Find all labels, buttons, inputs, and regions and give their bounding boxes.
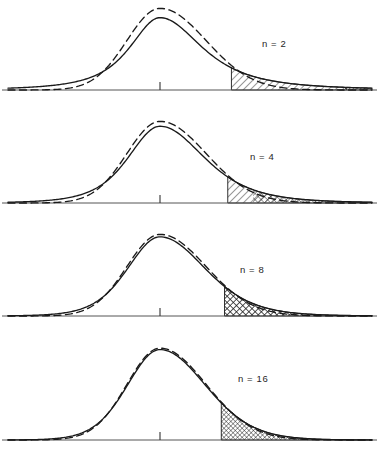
figure-canvas: n = 2 n = 4 n = 8 n = 16	[0, 0, 377, 453]
density-panel-n=4	[2, 121, 377, 203]
normal-distribution-curve	[8, 8, 372, 90]
t-distribution-curve	[8, 350, 372, 440]
panel-label-n4: n = 4	[250, 151, 274, 162]
panel-label-n8: n = 8	[240, 264, 264, 275]
normal-distribution-curve	[8, 348, 372, 440]
panels-group	[2, 8, 377, 440]
panel-label-n16: n = 16	[238, 373, 268, 384]
t-distribution-figure: n = 2 n = 4 n = 8 n = 16	[0, 0, 377, 453]
panel-label-n2: n = 2	[262, 38, 286, 49]
density-panel-n=16	[2, 348, 377, 440]
density-panel-n=2	[2, 8, 377, 90]
normal-distribution-curve	[8, 234, 372, 316]
normal-distribution-curve	[8, 121, 372, 203]
t-distribution-curve	[8, 237, 372, 316]
density-panel-n=8	[2, 234, 377, 316]
t-distribution-curve	[8, 18, 372, 89]
